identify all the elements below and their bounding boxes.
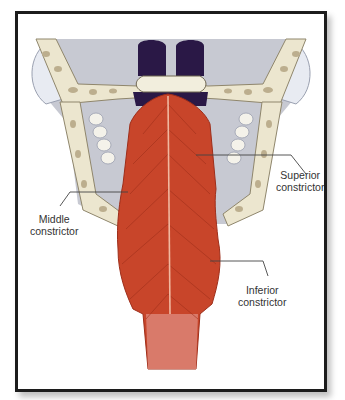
label-line: constrictor	[276, 181, 324, 193]
label-middle-constrictor: Middle constrictor	[30, 213, 78, 237]
label-line: Middle	[30, 213, 78, 225]
label-inferior-constrictor: Inferior constrictor	[238, 284, 286, 308]
pharynx-illustration	[18, 14, 324, 389]
label-line: Superior	[276, 169, 324, 181]
lower-muscle	[146, 314, 198, 369]
illustration-frame: Superior constrictor Middle constrictor …	[15, 11, 327, 392]
label-line: constrictor	[238, 296, 286, 308]
central-bone	[136, 76, 206, 92]
label-superior-constrictor: Superior constrictor	[276, 169, 324, 193]
label-line: constrictor	[30, 225, 78, 237]
label-line: Inferior	[238, 284, 286, 296]
